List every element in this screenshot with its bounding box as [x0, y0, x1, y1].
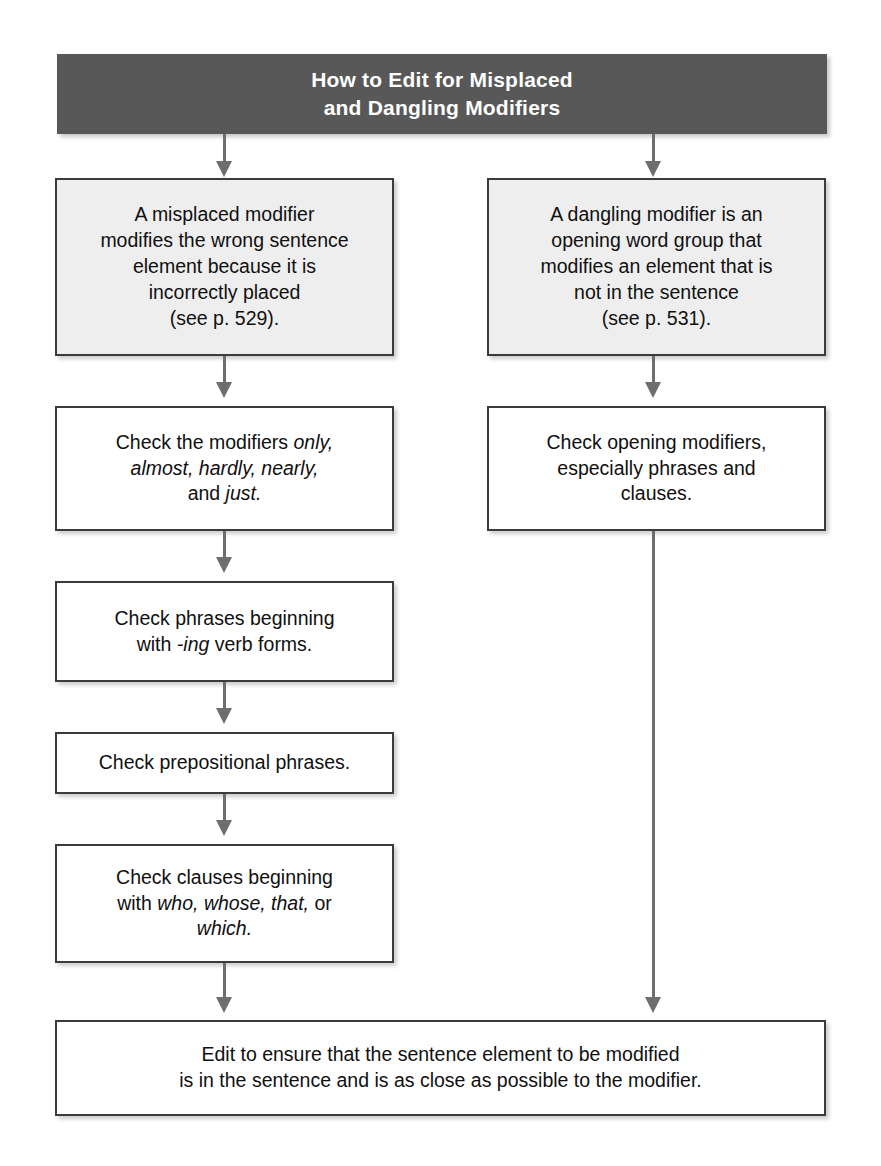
right-box-check-opening-modifiers: Check opening modifiers, especially phra…: [487, 406, 826, 531]
arrowhead-left-box4-to-box5: [216, 820, 232, 836]
left-box-1-line-4: incorrectly placed: [149, 281, 301, 303]
flowchart-canvas: How to Edit for Misplaced and Dangling M…: [0, 0, 881, 1166]
connector-left-box4-to-box5: [223, 794, 226, 822]
arrowhead-left-box3-to-box4: [216, 708, 232, 724]
arrowhead-banner-to-left-box1: [216, 161, 232, 177]
connector-banner-to-right-box1: [652, 134, 655, 164]
left-box-check-clauses: Check clauses beginning with who, whose,…: [55, 844, 394, 963]
left-box-2-em-list: almost, hardly, nearly,: [131, 457, 319, 479]
left-box-2-em-only: only,: [294, 431, 334, 453]
left-box-3-line-1: Check phrases beginning: [114, 607, 334, 629]
footer-line-2: is in the sentence and is as close as po…: [179, 1069, 701, 1091]
arrowhead-banner-to-right-box1: [645, 161, 661, 177]
arrowhead-right-box2-to-footer: [645, 997, 661, 1013]
arrowhead-left-box2-to-box3: [216, 557, 232, 573]
right-box-2-line-2: especially phrases and: [557, 457, 755, 479]
right-box-2-line-1: Check opening modifiers,: [546, 431, 766, 453]
right-box-1-line-2: opening word group that: [551, 229, 761, 251]
right-box-1-line-1: A dangling modifier is an: [550, 203, 762, 225]
left-box-3-em-ing: -ing: [177, 633, 210, 655]
left-box-1-line-2: modifies the wrong sentence: [100, 229, 348, 251]
left-box-1-line-1: A misplaced modifier: [135, 203, 315, 225]
left-box-5-line-1: Check clauses beginning: [116, 866, 333, 888]
left-box-3-tail: verb forms.: [209, 633, 312, 655]
flowchart-title-banner: How to Edit for Misplaced and Dangling M…: [57, 54, 827, 134]
footer-line-1: Edit to ensure that the sentence element…: [201, 1043, 679, 1065]
left-box-3-text: Check phrases beginning with -ing verb f…: [104, 606, 344, 658]
right-box-2-text: Check opening modifiers, especially phra…: [536, 430, 776, 508]
right-box-dangling-modifier-definition: A dangling modifier is an opening word g…: [487, 178, 826, 356]
left-box-5-or: or: [309, 892, 332, 914]
arrowhead-left-box1-to-box2: [216, 382, 232, 398]
left-box-check-ing-phrases: Check phrases beginning with -ing verb f…: [55, 581, 394, 682]
arrowhead-left-box5-to-footer: [216, 997, 232, 1013]
connector-left-box2-to-box3: [223, 531, 226, 559]
title-line-2: and Dangling Modifiers: [324, 96, 561, 119]
left-box-check-prepositional-phrases: Check prepositional phrases.: [55, 732, 394, 794]
left-box-5-lead: with: [117, 892, 157, 914]
left-box-check-modifiers: Check the modifiers only, almost, hardly…: [55, 406, 394, 531]
left-box-1-text: A misplaced modifier modifies the wrong …: [90, 202, 358, 332]
footer-box-text: Edit to ensure that the sentence element…: [169, 1042, 711, 1094]
footer-box-edit-to-ensure: Edit to ensure that the sentence element…: [55, 1020, 826, 1116]
right-box-2-line-3: clauses.: [621, 482, 693, 504]
left-box-5-text: Check clauses beginning with who, whose,…: [106, 865, 343, 943]
left-box-2-em-just: just.: [226, 482, 262, 504]
connector-right-box2-to-footer: [652, 531, 655, 999]
left-box-2-and: and: [188, 482, 226, 504]
connector-left-box5-to-footer: [223, 963, 226, 999]
left-box-5-em-which: which.: [197, 917, 252, 939]
connector-right-box1-to-box2: [652, 356, 655, 384]
left-box-1-line-3: element because it is: [133, 255, 316, 277]
connector-banner-to-left-box1: [223, 134, 226, 164]
arrowhead-right-box1-to-box2: [645, 382, 661, 398]
flowchart-title-text: How to Edit for Misplaced and Dangling M…: [311, 66, 573, 121]
left-box-5-em-pronouns: who, whose, that,: [157, 892, 309, 914]
left-box-2-text: Check the modifiers only, almost, hardly…: [106, 430, 344, 508]
right-box-1-text: A dangling modifier is an opening word g…: [531, 202, 783, 332]
connector-left-box3-to-box4: [223, 682, 226, 710]
left-box-2-lead: Check the modifiers: [116, 431, 294, 453]
left-box-4-line-1: Check prepositional phrases.: [99, 751, 350, 773]
left-box-3-lead: with: [137, 633, 177, 655]
right-box-1-line-3: modifies an element that is: [541, 255, 773, 277]
title-line-1: How to Edit for Misplaced: [311, 68, 573, 91]
left-box-misplaced-modifier-definition: A misplaced modifier modifies the wrong …: [55, 178, 394, 356]
right-box-1-line-4: not in the sentence: [574, 281, 739, 303]
right-box-1-line-5: (see p. 531).: [602, 307, 711, 329]
connector-left-box1-to-box2: [223, 356, 226, 384]
left-box-4-text: Check prepositional phrases.: [89, 750, 360, 776]
left-box-1-line-5: (see p. 529).: [170, 307, 279, 329]
